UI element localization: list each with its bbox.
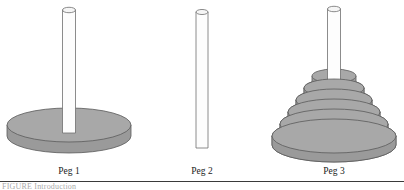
peg-1-rod bbox=[63, 7, 76, 133]
peg-3 bbox=[272, 6, 396, 162]
peg-3-rod bbox=[328, 6, 341, 90]
peg-3-rod-cap bbox=[328, 6, 341, 11]
peg-2-rod bbox=[196, 9, 208, 148]
figure-caption: FIGURE Introduction bbox=[2, 183, 402, 190]
peg-1-label: Peg 1 bbox=[29, 166, 109, 176]
peg-2-rod-cap bbox=[196, 9, 208, 14]
peg-1-rod-cap bbox=[63, 7, 76, 12]
hanoi-svg bbox=[0, 0, 404, 176]
pegs-group bbox=[7, 6, 396, 162]
hanoi-stage bbox=[0, 0, 404, 176]
peg-2-label: Peg 2 bbox=[162, 166, 242, 176]
peg-3-label: Peg 3 bbox=[294, 166, 374, 176]
peg-3-disk-6-front-top bbox=[272, 119, 396, 153]
peg-3-disk-6-front bbox=[272, 119, 396, 162]
hanoi-figure: Peg 1 Peg 2 Peg 3 FIGURE Introduction bbox=[0, 0, 404, 190]
peg-3-rod-shaft bbox=[328, 9, 341, 90]
peg-1-rod-shaft bbox=[63, 10, 76, 133]
peg-2 bbox=[196, 9, 208, 148]
peg-2-rod-shaft bbox=[196, 12, 208, 148]
figure-divider-rule bbox=[0, 181, 404, 182]
peg-1 bbox=[7, 7, 131, 153]
